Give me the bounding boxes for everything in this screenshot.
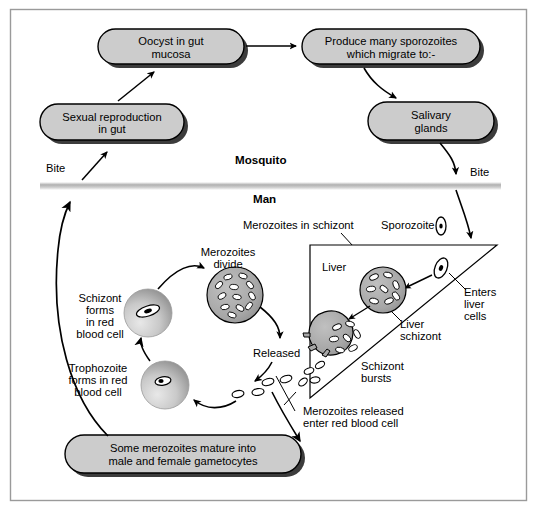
malaria-life-cycle-diagram: Oocyst in gut mucosa Produce many sporoz… bbox=[0, 0, 538, 513]
label-liver-schizont-2: schizont bbox=[400, 330, 442, 342]
box-produce-sporozoites[interactable]: Produce many sporozoites which migrate t… bbox=[302, 29, 484, 68]
label-schizont-forms-2: forms bbox=[86, 304, 114, 316]
box-sexual-line1: Sexual reproduction bbox=[62, 111, 162, 123]
label-schizont-bursts-2: bursts bbox=[361, 372, 392, 384]
label-schizont-bursts-1: Schizont bbox=[361, 360, 405, 372]
box-oocyst[interactable]: Oocyst in gut mucosa bbox=[98, 29, 248, 68]
box-produce-sporozoites-line1: Produce many sporozoites bbox=[325, 35, 458, 47]
box-sexual-reproduction[interactable]: Sexual reproduction in gut bbox=[40, 104, 188, 144]
label-bite-left: Bite bbox=[46, 162, 65, 174]
section-label-mosquito: Mosquito bbox=[235, 153, 287, 166]
label-enters-liver-cells-2: liver bbox=[464, 298, 485, 310]
label-enters-liver-cells-3: cells bbox=[464, 310, 487, 322]
box-oocyst-line2: mucosa bbox=[151, 48, 191, 60]
box-oocyst-line1: Oocyst in gut bbox=[138, 35, 204, 47]
label-sporozoite: Sporozoite bbox=[381, 219, 435, 231]
label-schizont-forms-4: blood cell bbox=[76, 328, 123, 340]
sporozoite-icon bbox=[436, 217, 446, 235]
box-gametocytes-line2: male and female gametocytes bbox=[108, 455, 258, 467]
box-produce-sporozoites-line2: which migrate to:- bbox=[346, 48, 436, 60]
label-released: Released bbox=[253, 347, 300, 359]
label-merozoites-released-2: enter red blood cell bbox=[303, 417, 398, 429]
box-gametocytes-line1: Some merozoites mature into bbox=[110, 442, 256, 454]
liver-schizont-cell bbox=[360, 267, 406, 313]
label-merozoites-divide-2: divide bbox=[213, 258, 242, 270]
box-salivary-line1: Salivary bbox=[411, 109, 451, 121]
schizont-red-blood-cell bbox=[124, 289, 172, 337]
box-gametocytes[interactable]: Some merozoites mature into male and fem… bbox=[65, 435, 305, 477]
box-salivary-glands[interactable]: Salivary glands bbox=[368, 102, 498, 144]
label-trophozoite-forms-2: forms in red bbox=[68, 374, 127, 386]
label-trophozoite-forms-1: Trophozoite bbox=[69, 362, 128, 374]
label-liver-schizont-1: Liver bbox=[400, 318, 425, 330]
label-schizont-forms-1: Schizont bbox=[79, 292, 123, 304]
label-enters-liver-cells-1: Enters bbox=[464, 286, 497, 298]
merozoites-divide-cell bbox=[207, 267, 263, 323]
box-sexual-line2: in gut bbox=[98, 123, 126, 135]
section-label-man: Man bbox=[253, 192, 276, 205]
label-merozoites-in-schizont: Merozoites in schizont bbox=[243, 219, 355, 231]
label-schizont-forms-3: in red bbox=[86, 316, 114, 328]
box-salivary-line2: glands bbox=[415, 122, 448, 134]
label-merozoites-released-1: Merozoites released bbox=[303, 405, 404, 417]
label-merozoites-divide-1: Merozoites bbox=[201, 246, 256, 258]
label-bite-right: Bite bbox=[470, 166, 489, 178]
label-liver: Liver bbox=[322, 261, 347, 273]
label-trophozoite-forms-3: blood cell bbox=[74, 386, 121, 398]
mosquito-man-divider bbox=[40, 182, 501, 190]
trophozoite-red-blood-cell bbox=[141, 361, 189, 409]
diagram-canvas: Oocyst in gut mucosa Produce many sporoz… bbox=[0, 0, 538, 513]
